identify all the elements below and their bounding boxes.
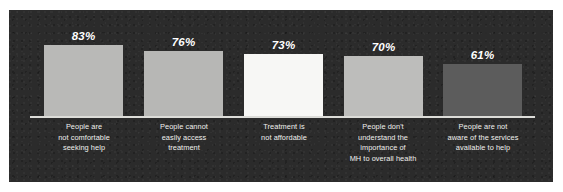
caption-line: not affordable <box>230 133 338 144</box>
caption-line: People don't <box>329 122 437 133</box>
chart-panel: 83% 76% 73% 70% 61% People arenot comfor… <box>9 10 553 182</box>
caption-line: understand the <box>329 133 437 144</box>
bar-value-label-3: 73% <box>232 39 335 51</box>
bar-group-3[interactable]: 73% <box>244 54 323 116</box>
bar-caption-5: People are notaware of the servicesavail… <box>429 122 537 154</box>
caption-line: Treatment is <box>230 122 338 133</box>
bar-chart-figure: 83% 76% 73% 70% 61% People arenot comfor… <box>0 0 563 192</box>
caption-line: MH to overall health <box>329 154 437 165</box>
plot-area: 83% 76% 73% 70% 61% People arenot comfor… <box>9 10 553 182</box>
bar-rect-1[interactable] <box>44 45 123 116</box>
caption-line: seeking help <box>30 143 138 154</box>
bar-value-label-4: 70% <box>332 41 435 53</box>
bar-caption-3: Treatment isnot affordable <box>230 122 338 143</box>
bar-value-label-1: 83% <box>32 30 135 42</box>
caption-line: People are <box>30 122 138 133</box>
bar-rect-4[interactable] <box>344 56 423 116</box>
caption-line: easily access <box>130 133 238 144</box>
caption-line: People are not <box>429 122 537 133</box>
bar-value-label-2: 76% <box>132 36 235 48</box>
bar-rect-3[interactable] <box>244 54 323 116</box>
bar-rect-5[interactable] <box>443 64 522 116</box>
caption-line: aware of the services <box>429 133 537 144</box>
bar-group-4[interactable]: 70% <box>344 56 423 116</box>
bar-caption-1: People arenot comfortableseeking help <box>30 122 138 154</box>
axis-baseline <box>30 116 535 118</box>
bar-group-1[interactable]: 83% <box>44 45 123 116</box>
caption-line: People cannot <box>130 122 238 133</box>
bar-group-5[interactable]: 61% <box>443 64 522 116</box>
bar-caption-4: People don'tunderstand theimportance ofM… <box>329 122 437 164</box>
bar-group-2[interactable]: 76% <box>144 51 223 116</box>
bar-caption-2: People cannoteasily accesstreatment <box>130 122 238 154</box>
caption-line: available to help <box>429 143 537 154</box>
caption-line: treatment <box>130 143 238 154</box>
caption-line: not comfortable <box>30 133 138 144</box>
bar-value-label-5: 61% <box>431 49 534 61</box>
bar-rect-2[interactable] <box>144 51 223 116</box>
caption-line: importance of <box>329 143 437 154</box>
